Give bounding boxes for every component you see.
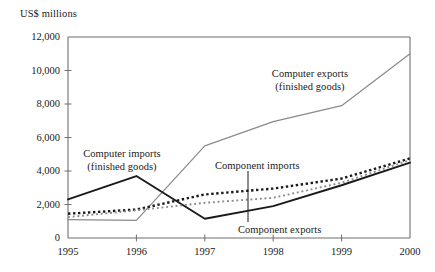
x-tick-label: 1998 xyxy=(250,246,296,257)
annotation-component-exports: Component exports xyxy=(238,224,321,237)
chart-plot-area xyxy=(0,0,435,272)
y-tick-label: 4,000 xyxy=(14,165,60,176)
x-tick-label: 2000 xyxy=(387,246,433,257)
x-tick-label: 1996 xyxy=(113,246,159,257)
x-tick-label: 1995 xyxy=(45,246,91,257)
y-tick-label: 2,000 xyxy=(14,199,60,210)
annotation-computer-exports-line1: Computer exports xyxy=(250,68,370,81)
annotation-component-imports: Component imports xyxy=(215,160,300,173)
y-tick-label: 10,000 xyxy=(14,65,60,76)
x-tick-label: 1999 xyxy=(319,246,365,257)
y-tick-label: 0 xyxy=(14,232,60,243)
chart-figure: US$ millions 12,00010,0008,0006,0004,000… xyxy=(0,0,435,272)
y-tick-label: 8,000 xyxy=(14,98,60,109)
x-tick-label: 1997 xyxy=(182,246,228,257)
y-tick-label: 6,000 xyxy=(14,132,60,143)
annotation-computer-exports-line2: (finished goods) xyxy=(250,81,370,94)
annotation-computer-imports: Computer imports (finished goods) xyxy=(62,148,182,173)
annotation-computer-imports-line2: (finished goods) xyxy=(62,161,182,174)
annotation-computer-exports: Computer exports (finished goods) xyxy=(250,68,370,93)
y-tick-label: 12,000 xyxy=(14,31,60,42)
annotation-computer-imports-line1: Computer imports xyxy=(62,148,182,161)
